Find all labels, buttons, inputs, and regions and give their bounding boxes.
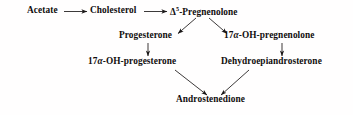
node-acetate: Acetate xyxy=(27,6,58,15)
node-oh-progesterone-number: 17 xyxy=(88,56,98,66)
node-oh-progesterone: 17α-OH-progesterone xyxy=(88,57,176,66)
node-progesterone-label: Progesterone xyxy=(119,30,172,40)
node-cholesterol: Cholesterol xyxy=(90,6,136,15)
edge-oh-progesterone-to-androstenedione xyxy=(175,70,207,95)
edge-pregnenolone-to-progesterone xyxy=(178,18,196,34)
node-dehydroepiandrosterone-label: Dehydroepiandrosterone xyxy=(221,56,322,66)
node-pregnenolone: Δ5-Pregnenolone xyxy=(170,6,238,17)
node-androstenedione-label: Androstenedione xyxy=(176,94,245,104)
edge-dhea-to-androstenedione xyxy=(221,70,249,95)
node-progesterone: Progesterone xyxy=(119,31,172,40)
pathway-diagram: Acetate Cholesterol Δ5-Pregnenolone Prog… xyxy=(0,0,353,115)
node-oh-pregnenolone-label: -OH-pregnenolone xyxy=(239,30,315,40)
node-cholesterol-label: Cholesterol xyxy=(90,5,136,15)
node-pregnenolone-label: -Pregnenolone xyxy=(179,7,237,17)
node-oh-progesterone-label: -OH-progesterone xyxy=(103,56,177,66)
node-dehydroepiandrosterone: Dehydroepiandrosterone xyxy=(221,57,322,66)
node-oh-pregnenolone: 17α-OH-pregnenolone xyxy=(224,31,315,40)
node-acetate-label: Acetate xyxy=(27,5,58,15)
node-oh-pregnenolone-number: 17 xyxy=(224,30,234,40)
node-androstenedione: Androstenedione xyxy=(176,95,245,104)
